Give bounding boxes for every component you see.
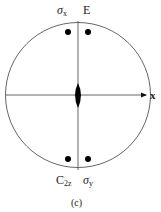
label-sigma-y: σy [83, 173, 93, 188]
label-x-axis: x [150, 89, 156, 101]
sigma-y-point [85, 156, 91, 162]
twofold-axis-symbol-icon [75, 83, 81, 108]
e-point [85, 29, 91, 35]
label-sigma-x: σx [57, 3, 67, 18]
stereogram-diagram: σx E x C2z σy (c) [0, 0, 161, 212]
label-e: E [83, 3, 90, 17]
sigma-x-point [65, 29, 71, 35]
label-c2z: C2z [56, 173, 72, 188]
caption: (c) [71, 197, 82, 209]
x-axis-arrowhead-icon [141, 93, 147, 98]
c2z-point [65, 156, 71, 162]
